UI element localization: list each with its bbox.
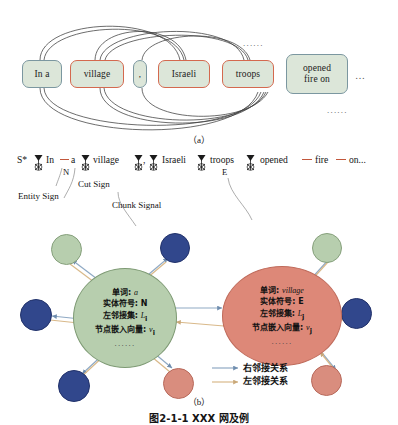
linear-sequence-row: S* In a N village , — [0, 152, 398, 186]
seq-word-in: In — [46, 154, 54, 165]
satellite-node-red-2[interactable] — [311, 365, 342, 396]
satellite-node-blue-4[interactable] — [341, 298, 372, 329]
seq-dash-1 — [60, 159, 69, 160]
seq-dash-3 — [336, 159, 346, 160]
hub-right-line-2: 实体符号: E — [260, 296, 303, 308]
seq-word-israeli: Israeli — [162, 154, 186, 165]
satellite-node-green-2[interactable] — [312, 233, 342, 263]
token-box-in-a[interactable]: In a — [22, 60, 62, 88]
seq-start-symbol: S* — [17, 154, 27, 165]
seq-word-village: village — [93, 154, 119, 165]
seq-word-fire: fire — [315, 154, 328, 165]
top-ellipsis: ...... — [243, 38, 264, 48]
satellite-node-blue-3[interactable] — [58, 370, 90, 402]
seq-word-comma: , — [143, 154, 145, 165]
hub-left-line-1: 单词: a — [112, 287, 138, 299]
legend-item-left-adjacency: 左邻接关系 — [240, 374, 288, 387]
token-box-village[interactable]: village — [70, 60, 124, 88]
hub-left-ellipsis: ...... — [114, 339, 135, 349]
graph-legend: 右邻接关系 左邻接关系 — [240, 361, 288, 387]
hub-right-line-3: 左邻接集: Lj — [260, 308, 305, 322]
legend-item-right-adjacency: 右邻接关系 — [240, 361, 288, 374]
legend-label: 左邻接关系 — [243, 374, 288, 387]
callout-entity-sign: Entity Sign — [18, 191, 59, 201]
hub-left-line-3: 左邻接集: Li — [103, 310, 148, 324]
bottom-ellipsis: ...... — [327, 105, 348, 115]
token-label: In a — [35, 69, 50, 80]
entity-mark-N: N — [63, 167, 69, 177]
token-box-opened-fire-on[interactable]: opened fire on — [286, 54, 348, 94]
token-label: Israeli — [172, 69, 196, 80]
hub-right-line-1: 单词: village — [260, 285, 304, 297]
callout-chunk-signal: Chunk Signal — [112, 200, 161, 210]
figure-caption: 图2-1-1 XXX 网及例 — [0, 410, 398, 425]
hub-node-right[interactable]: 单词: village 实体符号: E 左邻接集: Lj 节点嵌入向量: vj … — [222, 266, 342, 366]
panel-a: In a village , Israeli troops opened fir… — [0, 0, 398, 148]
seq-word-troops: troops — [210, 154, 234, 165]
seq-dash-2 — [302, 159, 312, 160]
hub-node-left[interactable]: 单词: a 实体符号: N 左邻接集: Li 节点嵌入向量: vi ...... — [73, 268, 177, 368]
hub-left-line-2: 实体符号: N — [103, 298, 148, 310]
hub-right-ellipsis: ...... — [271, 337, 292, 347]
legend-label: 右邻接关系 — [243, 361, 288, 374]
satellite-node-red-1[interactable] — [163, 368, 194, 399]
token-box-comma[interactable]: , — [133, 60, 147, 88]
seq-word-opened: opened — [260, 154, 288, 165]
token-label: , — [139, 69, 141, 79]
entity-sign-icon-5 — [196, 153, 207, 173]
hub-left-line-4: 节点嵌入向量: vi — [95, 324, 155, 338]
satellite-node-green-1[interactable] — [51, 234, 82, 265]
trailing-ellipsis: … — [355, 70, 366, 81]
panel-a-caption: （a） — [0, 133, 398, 146]
seq-word-on: on... — [349, 154, 366, 165]
entity-sign-icon-6 — [245, 153, 256, 173]
panel-b-caption: （b） — [0, 395, 398, 408]
hub-right-line-4: 节点嵌入向量: vj — [252, 322, 312, 336]
token-label: troops — [236, 69, 260, 80]
callout-cut-sign: Cut Sign — [78, 179, 110, 189]
token-label: opened fire on — [303, 63, 331, 84]
token-label: village — [84, 69, 111, 80]
entity-sign-icon-1 — [33, 153, 44, 173]
satellite-node-blue-2[interactable] — [20, 299, 52, 331]
token-box-troops[interactable]: troops — [222, 60, 274, 88]
entity-mark-E: E — [222, 167, 227, 177]
entity-sign-icon-2 — [80, 153, 91, 173]
seq-word-a: a — [71, 154, 75, 165]
satellite-node-blue-1[interactable] — [160, 233, 190, 263]
token-box-israeli[interactable]: Israeli — [158, 60, 210, 88]
entity-sign-icon-4 — [148, 153, 159, 173]
